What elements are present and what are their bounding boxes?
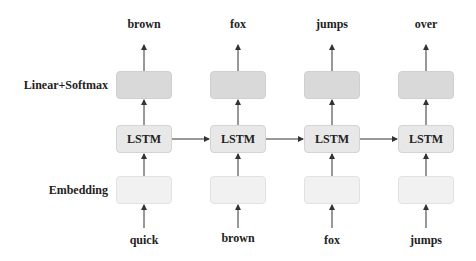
output-word-2: fox xyxy=(218,17,258,32)
linear-softmax-box-2 xyxy=(210,71,266,99)
lstm-cell-4: LSTM xyxy=(398,125,454,153)
lstm-cell-2: LSTM xyxy=(210,125,266,153)
linear-softmax-box-4 xyxy=(398,71,454,99)
embedding-box-1 xyxy=(116,176,172,204)
input-word-2: brown xyxy=(218,231,258,246)
output-word-3: jumps xyxy=(312,17,352,32)
embedding-box-2 xyxy=(210,176,266,204)
embedding-box-4 xyxy=(398,176,454,204)
lstm-cell-3: LSTM xyxy=(304,125,360,153)
input-word-1: quick xyxy=(124,233,164,248)
output-word-1: brown xyxy=(124,17,164,32)
linear-softmax-box-1 xyxy=(116,71,172,99)
lstm-cell-1: LSTM xyxy=(116,125,172,153)
linear-softmax-box-3 xyxy=(304,71,360,99)
output-word-4: over xyxy=(406,17,446,32)
input-word-4: jumps xyxy=(406,233,446,248)
lstm-label-2: LSTM xyxy=(221,132,255,147)
lstm-label-3: LSTM xyxy=(315,132,349,147)
lstm-label-1: LSTM xyxy=(127,132,161,147)
input-word-3: fox xyxy=(312,233,352,248)
lstm-label-4: LSTM xyxy=(409,132,443,147)
embedding-box-3 xyxy=(304,176,360,204)
